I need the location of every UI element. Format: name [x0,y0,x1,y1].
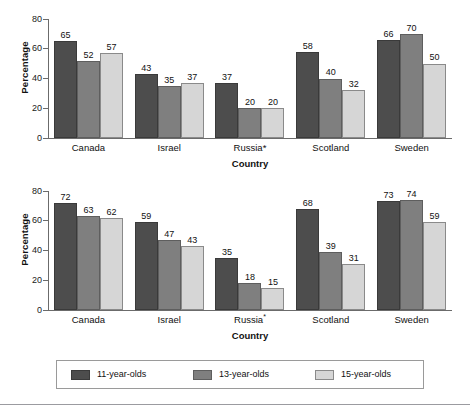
bar-groups-bottom: 72 63 62 59 [48,191,452,310]
y-tick-top-40: 40 [16,74,42,83]
category-label-israel-top: Israel [129,143,210,153]
bar-israel-15[interactable] [181,246,204,310]
bar-israel-13[interactable] [158,240,181,310]
bar-slot: 15 [261,191,284,310]
x-axis-category-labels-top: Canada Israel Russia* Scotland Sweden [48,143,452,153]
bar-canada-15[interactable] [100,218,123,310]
legend-item-11-year-olds[interactable]: 11-year-olds [57,370,179,380]
bar-slot: 70 [400,19,423,138]
x-axis-line-bottom [48,310,452,311]
category-text: Scotland [312,142,349,153]
category-text: Sweden [394,314,428,325]
bar-scotland-11[interactable] [296,52,319,138]
bar-slot: 52 [77,19,100,138]
y-tick-bottom-20: 20 [16,276,42,285]
bar-russia-13[interactable] [238,283,261,310]
y-tick-label: 40 [32,73,42,83]
legend-label: 11-year-olds [97,370,146,379]
bar-group-canada-top: 65 52 57 [48,19,129,138]
category-text: Canada [72,314,105,325]
bar-slot: 39 [319,191,342,310]
y-tick-label: 80 [32,14,42,24]
bar-canada-11[interactable] [54,203,77,310]
footnote-asterisk: * [263,142,267,153]
x-axis-title-top: Country [48,158,452,169]
category-text: Israel [158,314,181,325]
legend-label: 15-year-olds [341,370,391,379]
bar-group-scotland-bottom: 68 39 31 [290,191,371,310]
y-tick-bottom-80: 80 [16,187,42,196]
bar-scotland-11[interactable] [296,209,319,310]
bar-group-israel-bottom: 59 47 43 [129,191,210,310]
chart-panel-bottom: Percentage 80 60 40 20 0 [0,178,470,350]
y-tick-label: 60 [32,215,42,225]
bar-slot: 66 [377,19,400,138]
bar-slot: 35 [215,191,238,310]
bar-value-label: 37 [175,73,210,82]
bar-value-label: 57 [94,43,129,52]
bar-russia-11[interactable] [215,258,238,310]
bar-canada-13[interactable] [77,61,100,138]
bar-scotland-15[interactable] [342,90,365,138]
category-label-canada-top: Canada [48,143,129,153]
category-label-sweden-top: Sweden [371,143,452,153]
bar-sweden-15[interactable] [423,222,446,310]
bar-sweden-15[interactable] [423,64,446,138]
bar-russia-11[interactable] [215,83,238,138]
bar-slot: 37 [181,19,204,138]
bar-israel-15[interactable] [181,83,204,138]
y-tick-bottom-40: 40 [16,246,42,255]
bar-slot: 40 [319,19,342,138]
bar-slot: 65 [54,19,77,138]
bar-value-label: 62 [94,208,129,217]
y-tick-label: 0 [37,305,42,315]
bar-slot: 62 [100,191,123,310]
bar-slot: 50 [423,19,446,138]
y-tick-label: 40 [32,245,42,255]
legend-swatch-icon [193,370,212,380]
y-tick-label: 60 [32,43,42,53]
bar-scotland-15[interactable] [342,264,365,310]
bar-russia-15[interactable] [261,288,284,310]
bar-sweden-13[interactable] [400,34,423,138]
bar-slot: 58 [296,19,319,138]
chart-panel-top: Percentage 80 60 40 20 0 [0,6,470,178]
category-text: Russia [234,314,263,325]
y-tick-bottom-60: 60 [16,216,42,225]
bar-groups-top: 65 52 57 43 [48,19,452,138]
bar-group-sweden-top: 66 70 50 [371,19,452,138]
bar-sweden-11[interactable] [377,201,400,310]
bar-group-canada-bottom: 72 63 62 [48,191,129,310]
bar-sweden-11[interactable] [377,40,400,138]
legend-item-13-year-olds[interactable]: 13-year-olds [179,370,301,380]
bar-group-scotland-top: 58 40 32 [290,19,371,138]
y-axis-title-top: Percentage [19,28,30,108]
bar-russia-15[interactable] [261,108,284,138]
bar-canada-15[interactable] [100,53,123,138]
category-text: Israel [158,142,181,153]
y-tick-label: 0 [37,133,42,143]
bar-slot: 37 [215,19,238,138]
bar-value-label: 31 [336,254,371,263]
legend-swatch-icon [71,370,90,380]
bar-slot: 43 [181,191,204,310]
bar-slot: 73 [377,191,400,310]
bar-russia-13[interactable] [238,108,261,138]
bar-slot: 20 [238,19,261,138]
plot-area-top: 80 60 40 20 0 [48,19,452,138]
legend-item-15-year-olds[interactable]: 15-year-olds [301,370,423,380]
legend-label: 13-year-olds [219,370,269,379]
bar-israel-13[interactable] [158,86,181,138]
x-axis-title-bottom: Country [48,330,452,341]
category-text: Sweden [394,142,428,153]
footnote-asterisk: * [263,313,266,320]
figure: Percentage 80 60 40 20 0 [0,0,470,412]
y-tick-bottom-0: 0 [16,306,42,315]
category-label-russia-top: Russia* [210,143,291,153]
bar-value-label: 50 [417,53,452,62]
category-label-scotland-bottom: Scotland [290,315,371,325]
category-text: Canada [72,142,105,153]
legend-swatch-icon [315,370,334,380]
y-tick-label: 20 [32,103,42,113]
bar-canada-13[interactable] [77,216,100,310]
